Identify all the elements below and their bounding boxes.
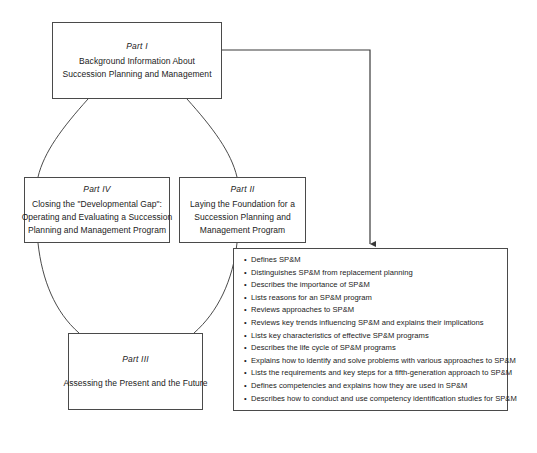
list-item-label: Distinguishes SP&M from replacement plan…: [251, 269, 499, 278]
node-part-3-line-1: Assessing the Present and the Future: [63, 377, 207, 390]
bullet-icon: •: [244, 319, 251, 327]
list-item: • Lists reasons for an SP&M program: [244, 294, 499, 303]
diagram-canvas: Part I Background Information About Succ…: [0, 0, 537, 453]
list-item: • Defines SP&M: [244, 256, 499, 265]
bullet-icon: •: [244, 269, 251, 277]
list-item: • Reviews key trends influencing SP&M an…: [244, 319, 499, 328]
list-item: • Describes the life cycle of SP&M progr…: [244, 344, 499, 353]
list-item: • Distinguishes SP&M from replacement pl…: [244, 269, 499, 278]
arc-part2-to-part3: [194, 243, 237, 333]
node-part-2-label: Part II: [230, 183, 254, 196]
bullet-icon: •: [244, 395, 251, 403]
node-part-3[interactable]: Part III Assessing the Present and the F…: [68, 333, 203, 410]
node-part-1-label: Part I: [126, 40, 148, 53]
list-item-label: Describes how to conduct and use compete…: [251, 395, 517, 404]
list-item-label: Describes the life cycle of SP&M program…: [251, 344, 499, 353]
arc-part1-to-part4: [38, 99, 88, 177]
node-part-2[interactable]: Part II Laying the Foundation for a Succ…: [179, 177, 306, 243]
node-part-4-line-3: Planning and Management Program: [28, 224, 166, 237]
list-item-label: Lists the requirements and key steps for…: [251, 369, 512, 378]
node-part-4-label: Part IV: [83, 183, 110, 196]
bullet-icon: •: [244, 357, 251, 365]
node-part-3-label: Part III: [122, 353, 149, 366]
list-item-label: Reviews approaches to SP&M: [251, 306, 499, 315]
list-item-label: Defines SP&M: [251, 256, 499, 265]
node-part-4-line-1: Closing the "Developmental Gap":: [32, 198, 162, 211]
list-item: • Explains how to identify and solve pro…: [244, 357, 499, 366]
list-item-label: Lists reasons for an SP&M program: [251, 294, 499, 303]
node-part-4[interactable]: Part IV Closing the "Developmental Gap":…: [24, 177, 170, 243]
list-item-label: Reviews key trends influencing SP&M and …: [251, 319, 499, 328]
bullet-icon: •: [244, 256, 251, 264]
list-item: • Lists the requirements and key steps f…: [244, 369, 499, 378]
arc-part1-to-part2: [187, 99, 237, 177]
bullet-icon: •: [244, 369, 251, 377]
list-item-label: Describes the importance of SP&M: [251, 281, 499, 290]
bullet-icon: •: [244, 332, 251, 340]
list-item: • Defines competencies and explains how …: [244, 382, 499, 391]
bullet-icon: •: [244, 281, 251, 289]
list-item-label: Explains how to identify and solve probl…: [251, 357, 516, 366]
bullet-icon: •: [244, 294, 251, 302]
node-part-2-line-2: Succession Planning and: [194, 211, 291, 224]
node-part-1-line-2: Succession Planning and Management: [62, 68, 211, 81]
detail-panel: • Defines SP&M • Distinguishes SP&M from…: [233, 248, 508, 411]
bullet-icon: •: [244, 382, 251, 390]
list-item: • Describes how to conduct and use compe…: [244, 395, 499, 404]
bullet-icon: •: [244, 306, 251, 314]
bullet-icon: •: [244, 344, 251, 352]
list-item: • Lists key characteristics of effective…: [244, 332, 499, 341]
node-part-2-line-3: Management Program: [200, 224, 285, 237]
list-item-label: Lists key characteristics of effective S…: [251, 332, 499, 341]
arc-part4-to-part3: [38, 243, 79, 333]
list-item-label: Defines competencies and explains how th…: [251, 382, 499, 391]
node-part-4-line-2: Operating and Evaluating a Succession: [22, 211, 173, 224]
list-item: • Reviews approaches to SP&M: [244, 306, 499, 315]
node-part-2-line-1: Laying the Foundation for a: [190, 198, 295, 211]
node-part-1[interactable]: Part I Background Information About Succ…: [52, 22, 222, 99]
node-part-1-line-1: Background Information About: [79, 55, 195, 68]
list-item: • Describes the importance of SP&M: [244, 281, 499, 290]
